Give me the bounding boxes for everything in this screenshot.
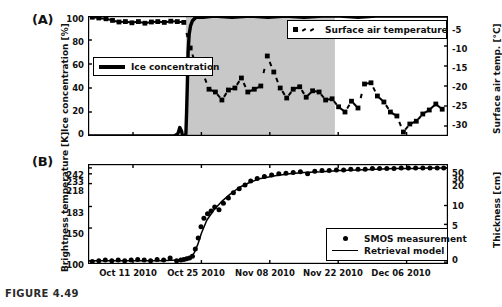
panel-b-ytick-183: 183 xyxy=(56,208,84,218)
panel-a-ytick-60: 60 xyxy=(62,60,84,70)
panel-a-ytick-80: 80 xyxy=(62,37,84,47)
panel-a-ytick-100: 100 xyxy=(62,14,84,24)
panel-a-right-axis-title: Surface air temp. [°C] xyxy=(492,23,502,134)
figure-caption: FIGURE 4.49 xyxy=(5,288,79,299)
panel-b-right-ytick-5: 5 xyxy=(452,221,458,231)
panel-b-ytick-150: 150 xyxy=(56,229,84,239)
panel-a-right-ytick-minus10: -10 xyxy=(452,44,467,54)
ice-concentration-legend-label: Ice concentration xyxy=(131,62,219,72)
panel-b-legend[interactable]: SMOS measurement Retrieval model xyxy=(326,228,448,261)
surface-air-temperature-marker-key xyxy=(293,25,319,34)
panel-a-right-ytick-minus5: -5 xyxy=(452,25,461,35)
ice-concentration-line-key xyxy=(99,65,125,69)
ice-concentration-legend[interactable]: Ice concentration xyxy=(93,57,213,76)
panel-b-ytick-218: 218 xyxy=(56,186,84,196)
xtick-dec-06: Dec 06 2010 xyxy=(366,268,436,278)
panel-a-right-ytick-minus30: -30 xyxy=(452,120,467,130)
retrieval-model-line-key xyxy=(332,250,358,252)
panel-a-ytick-40: 40 xyxy=(62,83,84,93)
panel-a-right-ytick-minus20: -20 xyxy=(452,82,467,92)
xtick-oct-11: Oct 11 2010 xyxy=(93,268,163,278)
panel-b-left-axis-title: Brightness temperature [K] xyxy=(60,132,70,272)
smos-measurement-legend-label: SMOS measurement xyxy=(364,234,467,244)
smos-measurement-dot-key xyxy=(332,234,358,243)
panel-b-right-axis-title: Thickness [cm] xyxy=(492,172,502,248)
surface-air-temperature-legend[interactable]: Surface air temperature xyxy=(287,20,447,39)
panel-b-label: (B) xyxy=(32,154,53,169)
panel-a-ytick-20: 20 xyxy=(62,106,84,116)
panel-a-right-ytick-minus25: -25 xyxy=(452,101,467,111)
panel-b-right-ytick-0: 0 xyxy=(452,255,458,265)
xtick-nov-22: Nov 22 2010 xyxy=(298,268,368,278)
panel-b-ytick-100: 100 xyxy=(56,260,84,270)
panel-a-right-ytick-minus15: -15 xyxy=(452,63,467,73)
surface-air-temperature-legend-label: Surface air temperature xyxy=(325,25,448,35)
panel-a-label: (A) xyxy=(32,12,53,27)
panel-b-right-ytick-20: 20 xyxy=(452,181,464,191)
xtick-oct-25: Oct 25 2010 xyxy=(161,268,231,278)
retrieval-model-legend-label: Retrieval model xyxy=(364,246,444,256)
xtick-nov-08: Nov 08 2010 xyxy=(230,268,300,278)
panel-b-right-ytick-10: 10 xyxy=(452,201,464,211)
